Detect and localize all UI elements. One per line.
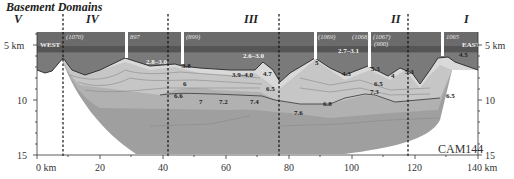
svg-text:15: 15 [17, 150, 27, 161]
svg-text:2.8–3.0: 2.8–3.0 [146, 58, 168, 66]
svg-text:6.8: 6.8 [323, 100, 332, 108]
svg-text:0 km: 0 km [36, 162, 57, 173]
svg-text:7.3: 7.3 [370, 88, 379, 96]
svg-text:6.5: 6.5 [374, 80, 383, 88]
svg-text:(1070): (1070) [66, 33, 83, 41]
svg-text:5 km: 5 km [485, 40, 506, 51]
svg-text:60: 60 [221, 162, 231, 173]
svg-text:4.3: 4.3 [342, 70, 351, 78]
svg-text:5: 5 [315, 59, 319, 67]
svg-text:5.3: 5.3 [371, 65, 380, 73]
svg-text:140 km: 140 km [467, 162, 498, 173]
svg-text:(1068): (1068) [352, 33, 369, 41]
svg-text:120: 120 [407, 162, 422, 173]
x-axis-labels: 0 km 20 40 60 80 100 120 140 km [36, 162, 498, 173]
svg-text:4: 4 [391, 72, 395, 80]
svg-text:2.6–3.0: 2.6–3.0 [243, 52, 265, 60]
svg-text:3.8: 3.8 [182, 62, 191, 70]
velocity-cross-section: (1070) 897 (899) (1069) (1068) (1067) (9… [0, 0, 514, 179]
svg-text:6: 6 [183, 80, 187, 88]
svg-text:15: 15 [485, 150, 495, 161]
svg-text:6.5: 6.5 [446, 92, 455, 100]
svg-text:(899): (899) [186, 33, 200, 41]
svg-text:4.7: 4.7 [263, 70, 272, 78]
svg-text:6.6: 6.6 [174, 92, 183, 100]
svg-text:4.5: 4.5 [459, 51, 468, 59]
svg-text:20: 20 [95, 162, 105, 173]
svg-text:100: 100 [344, 162, 359, 173]
svg-text:7: 7 [199, 98, 203, 106]
svg-text:10: 10 [17, 95, 27, 106]
profile-tag: CAM144 [438, 142, 483, 156]
svg-text:80: 80 [284, 162, 294, 173]
svg-text:6.5: 6.5 [266, 85, 275, 93]
svg-text:2.7–3.1: 2.7–3.1 [338, 47, 360, 55]
svg-text:5 km: 5 km [4, 40, 25, 51]
svg-text:(1069): (1069) [318, 33, 335, 41]
svg-text:7.2: 7.2 [219, 98, 228, 106]
svg-text:5.3: 5.3 [405, 68, 414, 76]
svg-text:897: 897 [130, 33, 141, 40]
svg-text:10: 10 [485, 95, 495, 106]
svg-text:1065: 1065 [446, 33, 460, 40]
svg-text:7.6: 7.6 [294, 109, 303, 117]
west-label: WEST [40, 41, 61, 49]
svg-text:(900): (900) [374, 40, 388, 48]
svg-text:3.9–4.0: 3.9–4.0 [232, 71, 254, 79]
svg-text:40: 40 [158, 162, 168, 173]
svg-text:7.4: 7.4 [250, 98, 259, 106]
